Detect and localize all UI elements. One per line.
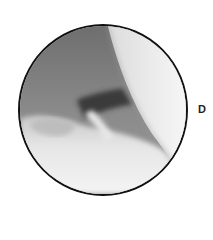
- arthroscopic-image: [20, 26, 186, 194]
- panel-label: D: [198, 103, 206, 115]
- arthroscopic-view: [18, 24, 188, 196]
